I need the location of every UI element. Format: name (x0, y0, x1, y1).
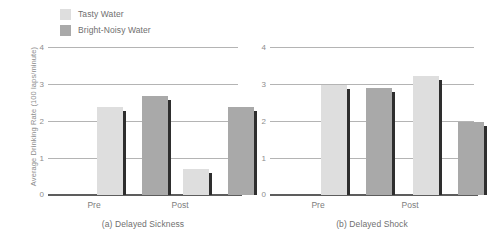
legend-item-label: Bright-Noisy Water (78, 25, 151, 35)
bar-group-a (48, 47, 238, 195)
chart-panel-delayed-sickness: 4 3 2 1 0 Pre Post (a) Delayed Sickness (30, 47, 238, 235)
y-tick-label: 2 (262, 117, 266, 126)
plot-area-a: 4 3 2 1 0 (48, 47, 238, 195)
y-tick-label: 1 (40, 154, 44, 163)
y-tick-label: 4 (40, 43, 44, 52)
y-tick-label: 3 (40, 80, 44, 89)
bar-fill (97, 107, 123, 195)
legend-swatch-icon (60, 25, 71, 36)
x-tick-label-post: Post (171, 200, 188, 210)
bar-fill (183, 169, 209, 195)
y-tick-label: 3 (262, 80, 266, 89)
panel-caption: (b) Delayed Shock (270, 219, 474, 229)
y-tick-label: 0 (40, 190, 44, 199)
bar-fill (413, 76, 439, 195)
chart-panel-delayed-shock: 4 3 2 1 0 Pre Post (b) Delayed Shock (252, 47, 474, 235)
y-tick-label: 0 (262, 190, 266, 199)
y-tick-label: 4 (262, 43, 266, 52)
bar-fill (142, 96, 168, 195)
y-tick-label: 1 (262, 154, 266, 163)
legend-swatch-icon (60, 9, 71, 20)
plot-area-b: 4 3 2 1 0 (270, 47, 474, 195)
legend-item-label: Tasty Water (78, 9, 124, 19)
bar-fill (228, 107, 254, 195)
legend-item-bright-noisy-water: Bright-Noisy Water (60, 24, 151, 36)
chart-legend: Tasty Water Bright-Noisy Water (60, 8, 151, 36)
legend-item-tasty-water: Tasty Water (60, 8, 151, 20)
y-tick-label: 2 (40, 117, 44, 126)
x-tick-label-pre: Pre (87, 200, 100, 210)
bar-fill (321, 85, 347, 195)
bar-fill (366, 88, 392, 195)
panel-caption: (a) Delayed Sickness (48, 219, 238, 229)
x-tick-label-pre: Pre (311, 200, 324, 210)
bar-fill (458, 122, 484, 196)
x-tick-label-post: Post (401, 200, 418, 210)
bar-group-b (270, 47, 474, 195)
